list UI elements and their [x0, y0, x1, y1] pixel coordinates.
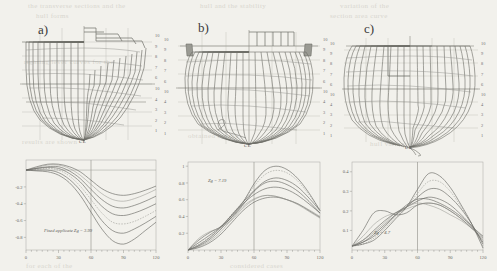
chart-svg-b: 10.80.60.40.20306090120Zg = 7.19: [162, 156, 334, 268]
hull-sections-fore-c: [410, 46, 475, 148]
y-tick-label: 0.3: [343, 189, 349, 194]
hull-lines-a: [0, 8, 168, 156]
hull-reference-lines-c: [342, 36, 480, 148]
waterline-tick-label: 1: [155, 129, 159, 140]
waterline-tick-label: 10: [155, 87, 159, 98]
centerline-label-a: CL: [79, 139, 86, 144]
y-tick-label: 0.2: [179, 231, 185, 236]
waterline-tick-label: 3: [481, 113, 485, 123]
panel-a-body-plan: CL 109876104321: [0, 8, 168, 156]
y-tick-label: 0.2: [343, 209, 349, 214]
y-tick-label: 0.1: [343, 228, 349, 233]
chart-annotation: Zg = 7.19: [208, 178, 227, 183]
waterline-scale-b-left: 109876104321: [164, 38, 168, 142]
panel-b-label: b): [198, 20, 209, 36]
waterline-scale-a: 109876104321: [155, 34, 159, 140]
chart-annotation: Zg = 4.7: [374, 230, 391, 235]
chart-svg-a: -0.2-0.4-0.6-0.80306090120Fixed applicat…: [0, 156, 168, 268]
hull-reference-lines-b: [176, 30, 322, 146]
panel-a: a): [0, 0, 168, 271]
centerline-label-b: CL: [244, 143, 251, 148]
x-tick-label: 90: [448, 255, 453, 260]
panel-b: b): [162, 0, 334, 271]
hull-lines-c: [326, 8, 497, 156]
y-tick-label: 0.6: [179, 197, 185, 202]
panel-c-chart: 0.40.30.20.10306090120Zg = 4.7: [326, 156, 497, 268]
waterline-scale-c-left: 109876104321: [330, 42, 334, 144]
x-tick-label: 30: [219, 255, 224, 260]
x-tick-label: 60: [89, 255, 94, 260]
panel-c-label: c): [364, 21, 374, 37]
waterline-tick-label: 7: [164, 69, 168, 79]
deck-outline-a: [84, 28, 145, 48]
x-tick-label: 0: [25, 255, 28, 260]
chart-svg-c: 0.40.30.20.10306090120Zg = 4.7: [326, 156, 497, 268]
hull-lines-b: [162, 8, 334, 156]
waterline-tick-label: 1: [164, 132, 168, 142]
y-tick-label: -0.6: [15, 218, 23, 223]
waterline-tick-label: 2: [164, 121, 168, 131]
panel-c-body-plan: CL 109876104321 109876104321: [326, 8, 497, 156]
waterline-scale-c-right: 109876104321: [481, 42, 485, 144]
y-tick-label: 0.8: [179, 181, 185, 186]
waterline-tick-label: 3: [330, 113, 334, 123]
y-tick-label: -0.4: [15, 201, 23, 206]
x-tick-label: 0: [351, 255, 354, 260]
waterline-tick-label: 1: [330, 134, 334, 144]
y-tick-label: 0.4: [343, 169, 349, 174]
y-tick-label: 0.4: [179, 214, 185, 219]
panel-c: c): [326, 0, 497, 271]
chart-annotation: Fixed applicate Zg = 3.99: [43, 228, 93, 233]
x-tick-label: 120: [317, 255, 325, 260]
panel-a-chart: -0.2-0.4-0.6-0.80306090120Fixed applicat…: [0, 156, 168, 268]
hull-sections-aft-c: [344, 46, 410, 148]
y-tick-label: -0.8: [15, 235, 23, 240]
waterline-tick-label: 1: [481, 134, 485, 144]
waterline-tick-label: 10: [155, 34, 159, 45]
x-tick-label: 120: [480, 255, 488, 260]
x-tick-label: 90: [121, 255, 126, 260]
figure-canvas: the transverse sections and thehull form…: [0, 0, 497, 271]
x-tick-label: 120: [153, 255, 161, 260]
panel-a-label: a): [38, 22, 48, 38]
x-tick-label: 90: [285, 255, 290, 260]
x-tick-label: 30: [382, 255, 387, 260]
hull-sections-aft-a: [26, 42, 84, 140]
x-tick-label: 0: [187, 255, 190, 260]
y-tick-label: 1: [182, 164, 185, 169]
x-tick-label: 60: [415, 255, 420, 260]
x-tick-label: 60: [252, 255, 257, 260]
y-tick-label: -0.2: [15, 185, 23, 190]
deck-outline-b: [202, 32, 294, 52]
centerline-label-c: CL: [405, 145, 412, 150]
panel-b-body-plan: CL 109876104321 109876104321: [162, 8, 334, 156]
panel-b-chart: 10.80.60.40.20306090120Zg = 7.19: [162, 156, 334, 268]
x-tick-label: 30: [56, 255, 61, 260]
